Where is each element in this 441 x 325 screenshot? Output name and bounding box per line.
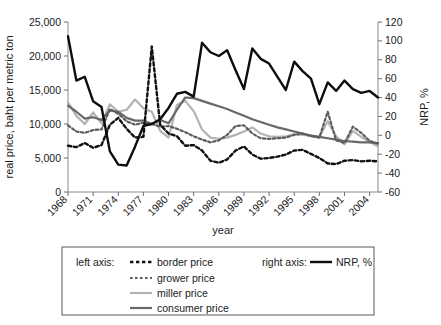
legend-entry-miller-price: miller price [157, 287, 208, 299]
right-axis-tick-label: 100 [385, 34, 403, 46]
right-axis-tick-label: -20 [385, 148, 400, 160]
x-axis-tick-label: 2001 [321, 193, 346, 218]
right-axis-tick-label: 0 [385, 129, 391, 141]
legend-entry-border-price: border price [157, 256, 213, 268]
x-axis-tick-label: 1995 [271, 193, 296, 218]
x-axis-tick-label: 1977 [120, 193, 145, 218]
left-axis-tick-label: 15,000 [29, 84, 61, 96]
right-axis-tick-label: 20 [385, 110, 397, 122]
right-axis-tick-label: 120 [385, 16, 403, 28]
right-axis-tick-label: -60 [385, 186, 400, 198]
legend-left-axis-label: left axis: [76, 256, 115, 268]
x-axis-tick-label: 1992 [245, 193, 270, 218]
left-axis-tick-label: 10,000 [29, 118, 61, 130]
x-axis-tick-label: 1983 [170, 193, 195, 218]
chart-svg: 05,00010,00015,00020,00025,000-60-40-200… [0, 0, 441, 325]
y2-axis-title: NRP, % [418, 88, 430, 126]
x-axis-tick-label: 1989 [220, 193, 245, 218]
chart-figure: 05,00010,00015,00020,00025,000-60-40-200… [0, 0, 441, 325]
legend-entry-grower-price: grower price [157, 272, 215, 284]
right-axis-tick-label: 60 [385, 72, 397, 84]
y-axis-title: real price, baht per metric ton [3, 35, 15, 178]
right-axis-tick-label: 80 [385, 53, 397, 65]
x-axis-tick-label: 1986 [195, 193, 220, 218]
x-axis-tick-label: 1968 [44, 193, 69, 218]
x-axis-tick-label: 2004 [346, 193, 371, 218]
legend-entry-nrp: NRP, % [336, 256, 372, 268]
x-axis-tick-label: 1974 [95, 193, 120, 218]
x-axis-tick-label: 1998 [296, 193, 321, 218]
right-axis-tick-label: -40 [385, 167, 400, 179]
left-axis-tick-label: 5,000 [35, 152, 61, 164]
right-axis-tick-label: 40 [385, 91, 397, 103]
legend-right-axis-label: right axis: [262, 256, 307, 268]
left-axis-tick-label: 25,000 [29, 16, 61, 28]
legend-entry-consumer-price: consumer price [157, 302, 229, 314]
x-axis-title: year [212, 224, 234, 236]
left-axis-tick-label: 20,000 [29, 50, 61, 62]
x-axis-tick-label: 1971 [70, 193, 95, 218]
x-axis-tick-label: 1980 [145, 193, 170, 218]
